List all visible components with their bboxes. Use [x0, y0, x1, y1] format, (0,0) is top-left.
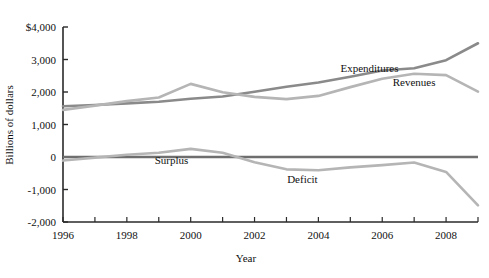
budget-line-chart: $4,0003,0002,0001,0000-1,000-2,000 19961…: [0, 0, 489, 278]
y-tick-label: 1,000: [31, 119, 56, 131]
y-tick-label: 2,000: [31, 86, 56, 98]
annotation-deficit: Deficit: [287, 173, 318, 185]
y-tick-label: -1,000: [28, 184, 57, 196]
x-axis-tick-labels: 1996199820002002200420062008: [52, 229, 458, 241]
annotation-expenditures: Expenditures: [340, 62, 398, 74]
y-tick-label: -2,000: [28, 216, 57, 228]
plot-area: $4,0003,0002,0001,0000-1,000-2,000 19961…: [26, 21, 478, 241]
annotation-revenues: Revenues: [393, 76, 436, 88]
x-tick-label: 1998: [116, 229, 139, 241]
x-tick-label: 2006: [371, 229, 394, 241]
axis-ticks: [63, 27, 478, 222]
annotation-surplus: Surplus: [155, 154, 189, 166]
y-axis-title: Billions of dollars: [3, 85, 15, 164]
chart-container: $4,0003,0002,0001,0000-1,000-2,000 19961…: [0, 0, 489, 278]
y-axis-tick-labels: $4,0003,0002,0001,0000-1,000-2,000: [26, 21, 57, 228]
data-series-lines: [63, 43, 478, 205]
y-tick-label: 3,000: [31, 54, 56, 66]
y-tick-label: 0: [51, 151, 57, 163]
series-annotations: ExpendituresRevenuesSurplusDeficit: [155, 62, 436, 185]
chart-axes: [63, 27, 478, 222]
x-tick-label: 2008: [435, 229, 458, 241]
x-tick-label: 2004: [307, 229, 330, 241]
x-tick-label: 2002: [244, 229, 266, 241]
x-tick-label: 2000: [180, 229, 203, 241]
x-axis-title: Year: [236, 252, 257, 264]
x-tick-label: 1996: [52, 229, 75, 241]
y-tick-label: $4,000: [26, 21, 57, 33]
